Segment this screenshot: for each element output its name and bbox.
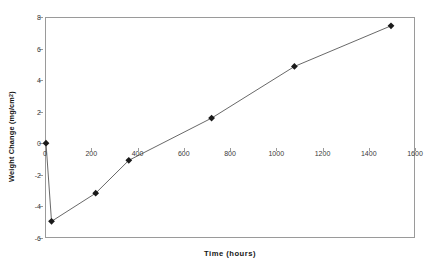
- data-point-marker: [208, 115, 215, 122]
- y-tick-label: 2: [15, 108, 41, 115]
- x-tick-label: 400: [132, 150, 144, 157]
- y-tick-label: -6: [15, 235, 41, 242]
- y-axis-tick-labels: -6-4-202468: [10, 17, 41, 238]
- y-tick-label: 0: [15, 140, 41, 147]
- y-tick-label: 4: [15, 77, 41, 84]
- x-tick-label: 1600: [407, 150, 423, 157]
- x-tick-label: 1000: [268, 150, 284, 157]
- x-tick-label: 800: [224, 150, 236, 157]
- data-series-layer: [46, 18, 414, 237]
- y-tick-label: 8: [15, 14, 41, 21]
- y-tick-label: -2: [15, 171, 41, 178]
- x-tick-label: 1200: [315, 150, 331, 157]
- x-axis-title: Time (hours): [45, 249, 415, 258]
- data-point-marker: [291, 63, 298, 70]
- y-tick-label: -4: [15, 203, 41, 210]
- x-tick-label: 0: [43, 150, 47, 157]
- y-tick-label: 6: [15, 45, 41, 52]
- plot-area: [45, 17, 415, 238]
- x-tick-label: 600: [178, 150, 190, 157]
- chart-container: Weight Change (mg/cm2) -6-4-202468 02004…: [0, 0, 439, 273]
- x-tick-label: 1400: [361, 150, 377, 157]
- data-point-marker: [388, 22, 395, 29]
- data-point-marker: [48, 218, 55, 225]
- x-axis-tick-labels: 02004006008001000120014001600: [45, 150, 415, 162]
- series-markers-weight-change: [43, 22, 395, 224]
- x-tick-label: 200: [85, 150, 97, 157]
